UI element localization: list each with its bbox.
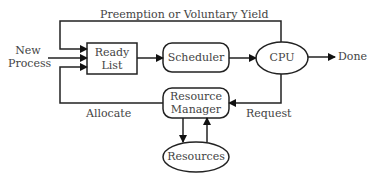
preemption-edge bbox=[60, 21, 281, 49]
allocate-edge bbox=[60, 67, 163, 103]
new-process-label: New Process bbox=[8, 44, 48, 70]
ready-list-label-line1: Ready bbox=[87, 46, 137, 59]
new-process-label-line2: Process bbox=[8, 57, 48, 70]
cpu-label: CPU bbox=[256, 51, 308, 64]
allocate-label: Allocate bbox=[86, 107, 131, 120]
resource-manager-label-line1: Resource bbox=[163, 90, 229, 103]
done-label: Done bbox=[338, 50, 367, 63]
preemption-label: Preemption or Voluntary Yield bbox=[100, 8, 269, 21]
resource-manager-label-line2: Manager bbox=[163, 103, 229, 116]
request-edge bbox=[229, 74, 281, 103]
ready-list-label: Ready List bbox=[87, 46, 137, 72]
resources-label: Resources bbox=[163, 150, 229, 163]
new-process-label-line1: New bbox=[8, 44, 48, 57]
resource-manager-label: Resource Manager bbox=[163, 90, 229, 116]
ready-list-label-line2: List bbox=[87, 59, 137, 72]
request-label: Request bbox=[246, 107, 292, 120]
process-scheduling-diagram: Preemption or Voluntary Yield New Proces… bbox=[0, 0, 374, 179]
scheduler-label: Scheduler bbox=[163, 51, 229, 64]
